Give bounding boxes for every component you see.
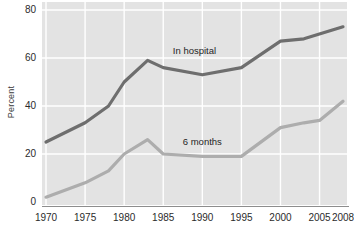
x-axis-rule	[42, 206, 349, 207]
x-tick-label: 1995	[230, 212, 252, 224]
x-tick-label: 2005	[308, 212, 330, 224]
horizontal-gridlines	[42, 10, 347, 154]
plot-svg	[42, 2, 347, 205]
series-line-6-months	[46, 101, 343, 197]
series-annotation-6-months: 6 months	[183, 136, 222, 147]
vertical-gridlines	[46, 2, 320, 205]
y-tick-label: 40	[25, 101, 36, 111]
y-tick-label: 20	[25, 149, 36, 159]
x-tick-label: 2008	[332, 212, 354, 224]
y-tick-label: 60	[25, 53, 36, 63]
x-tick-label: 1990	[191, 212, 213, 224]
y-tick-label: 0	[30, 197, 36, 207]
x-tick-label: 1975	[74, 212, 96, 224]
x-tick-label: 1985	[152, 212, 174, 224]
x-axis-tick-labels: 197019751980198519901995200020052008	[0, 212, 353, 232]
y-tick-label: 80	[25, 5, 36, 15]
y-axis-tick-labels: 806040200	[0, 0, 42, 241]
plot-area	[42, 2, 347, 205]
series-annotation-in-hospital: In hospital	[173, 45, 216, 56]
x-tick-label: 2000	[269, 212, 291, 224]
x-tick-label: 1970	[35, 212, 57, 224]
x-tick-label: 1980	[113, 212, 135, 224]
